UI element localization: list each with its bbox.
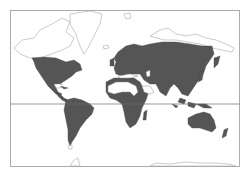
south-america [64, 98, 94, 146]
shaded-distribution [32, 42, 228, 149]
uk [110, 58, 114, 66]
southeast-asia-islands [172, 98, 212, 108]
world-map [0, 0, 241, 171]
caribbean [60, 86, 68, 89]
madagascar [143, 110, 147, 120]
australia [188, 112, 216, 132]
iceland [103, 45, 109, 49]
new-zealand [222, 128, 228, 138]
north-america [32, 57, 82, 96]
antarctica [70, 158, 236, 166]
arctic-canada [14, 18, 74, 58]
svalbard [124, 13, 131, 19]
greenland [70, 11, 102, 54]
tierra-del-fuego [68, 145, 72, 149]
